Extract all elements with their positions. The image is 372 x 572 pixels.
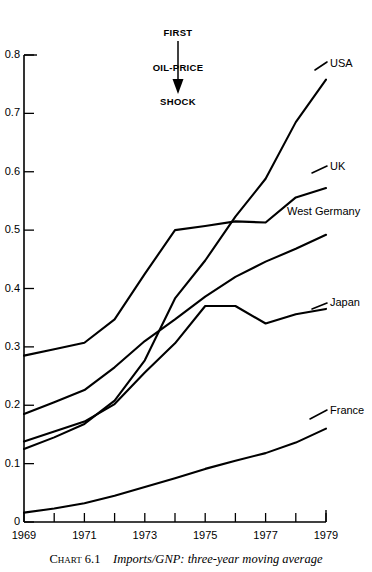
y-tick-label: 0.1 [0,457,20,469]
y-tick-label: 0.3 [0,340,20,352]
series-line-uk [24,188,326,356]
x-tick-label: 1971 [64,529,104,541]
series-line-france [24,429,326,513]
annotation-line-2: OIL-PRICE [118,62,238,74]
series-line-west-germany [24,235,326,414]
series-label-leader [315,62,327,70]
annotation-line-1: FIRST [118,27,238,39]
series-label-leader [310,410,327,419]
y-tick-label: 0.5 [0,223,20,235]
y-tick-label: 0.7 [0,106,20,118]
x-tick-label: 1969 [4,529,44,541]
y-tick-label: 0 [0,515,20,527]
chart-figure: FIRST OIL-PRICE SHOCK 00.10.20.30.40.50.… [0,0,372,572]
series-line-japan [24,306,326,441]
series-label-japan: Japan [330,296,360,308]
x-tick-label: 1973 [125,529,165,541]
caption-chart-number: Chart 6.1 [49,552,100,566]
caption-chart-title: Imports/GNP: three-year moving average [113,552,323,566]
x-tick-label: 1977 [246,529,286,541]
first-oil-price-shock-annotation: FIRST OIL-PRICE SHOCK [118,4,238,131]
series-label-uk: UK [330,160,345,172]
annotation-line-3: SHOCK [118,96,238,108]
y-tick-label: 0.2 [0,398,20,410]
chart-caption: Chart 6.1 Imports/GNP: three-year moving… [0,552,372,567]
y-tick-label: 0.6 [0,165,20,177]
series-label-france: France [330,404,364,416]
x-tick-marks [24,513,326,522]
x-tick-label: 1979 [306,529,346,541]
series-label-west-germany: West Germany [287,205,360,217]
data-series-group [24,80,326,513]
caption-spacer [100,552,113,566]
y-tick-label: 0.4 [0,282,20,294]
x-tick-label: 1975 [185,529,225,541]
series-line-usa [24,80,326,450]
y-tick-label: 0.8 [0,48,20,60]
y-tick-marks [24,55,34,522]
series-label-leader [312,166,327,173]
series-label-usa: USA [330,57,353,69]
